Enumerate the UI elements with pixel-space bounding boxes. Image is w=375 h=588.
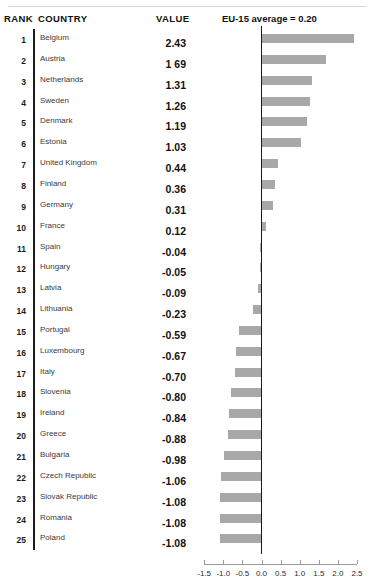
row-value-label: -0.23 [128,308,186,320]
row-rank: 4 [4,98,26,108]
row-rank: 22 [4,473,26,483]
row-country-label: Poland [40,533,65,542]
table-row[interactable]: 3Netherlands1.31 [0,71,375,92]
table-row[interactable]: 21Bulgaria-0.98 [0,446,375,467]
row-rank: 10 [4,223,26,233]
table-row[interactable]: 6Estonia1.03 [0,133,375,154]
row-value-label: -0.98 [128,454,186,466]
row-country-label: Austria [40,54,65,63]
table-row[interactable]: 12Hungary-0.05 [0,258,375,279]
row-rank: 16 [4,348,26,358]
x-axis-tick [338,560,339,564]
table-row[interactable]: 17Italy-0.70 [0,363,375,384]
table-row[interactable]: 19Ireland-0.84 [0,404,375,425]
row-rank: 2 [4,56,26,66]
table-row[interactable]: 14Lithuania-0.23 [0,300,375,321]
row-rank: 3 [4,77,26,87]
row-separator-rule [33,363,35,384]
table-row[interactable]: 4Sweden1.26 [0,92,375,113]
row-rank: 17 [4,369,26,379]
row-rank: 21 [4,452,26,462]
row-rank: 13 [4,285,26,295]
row-country-label: Belgium [40,33,69,42]
x-axis-line [204,564,357,565]
row-country-label: Bulgaria [40,450,69,459]
table-row[interactable]: 10France0.12 [0,217,375,238]
table-row[interactable]: 2Austria1 69 [0,50,375,71]
row-separator-rule [33,425,35,446]
row-country-label: Greece [40,429,66,438]
row-value-label: -0.70 [128,371,186,383]
row-rank: 25 [4,535,26,545]
table-row[interactable]: 11Spain-0.04 [0,238,375,259]
row-country-label: Estonia [40,137,67,146]
row-rank: 8 [4,181,26,191]
row-country-label: Luxembourg [40,346,84,355]
row-value-label: -0.05 [128,266,186,278]
x-axis-tick [204,560,205,564]
row-value-label: -0.80 [128,391,186,403]
row-separator-rule [33,279,35,300]
row-value-label: 0.44 [128,162,186,174]
row-rank: 11 [4,244,26,254]
row-value-label: 1.03 [128,141,186,153]
row-country-label: France [40,221,65,230]
row-separator-rule [33,258,35,279]
row-separator-rule [33,321,35,342]
row-value-label: -0.88 [128,433,186,445]
row-country-label: Ireland [40,408,64,417]
row-value-label: -1.06 [128,475,186,487]
table-row[interactable]: 7United Kingdom0.44 [0,154,375,175]
row-separator-rule [33,196,35,217]
row-separator-rule [33,71,35,92]
row-value-label: 1.31 [128,79,186,91]
table-row[interactable]: 9Germany0.31 [0,196,375,217]
table-row[interactable]: 8Finland0.36 [0,175,375,196]
table-row[interactable]: 22Czech Republic-1.06 [0,467,375,488]
x-axis-tick-label: 2.5 [342,569,372,578]
row-rank: 23 [4,494,26,504]
eu15-average-annotation: EU-15 average = 0.20 [222,13,317,26]
row-value-label: 0.31 [128,204,186,216]
row-separator-rule [33,133,35,154]
row-separator-rule [33,300,35,321]
row-separator-rule [33,383,35,404]
table-row[interactable]: 25Poland-1.08 [0,529,375,550]
row-rank: 18 [4,389,26,399]
table-row[interactable]: 13Latvia-0.09 [0,279,375,300]
table-row[interactable]: 23Slovak Republic-1.08 [0,488,375,509]
row-country-label: Italy [40,367,55,376]
row-value-label: 1.26 [128,100,186,112]
row-country-label: Germany [40,200,73,209]
row-rank: 20 [4,431,26,441]
table-row[interactable]: 15Portugal-0.59 [0,321,375,342]
row-separator-rule [33,217,35,238]
row-value-label: -0.59 [128,329,186,341]
table-row[interactable]: 18Slovenia-0.80 [0,383,375,404]
row-country-label: Slovak Republic [40,492,97,501]
row-rank: 19 [4,410,26,420]
row-separator-rule [33,238,35,259]
row-separator-rule [33,154,35,175]
row-value-label: 1 69 [128,58,186,70]
row-country-label: Spain [40,242,60,251]
row-separator-rule [33,446,35,467]
row-value-label: -1.08 [128,537,186,549]
table-row[interactable]: 16Luxembourg-0.67 [0,342,375,363]
row-value-label: -1.08 [128,517,186,529]
column-header-value: VALUE [156,13,190,26]
row-rank: 7 [4,160,26,170]
row-country-label: Hungary [40,262,70,271]
row-country-label: Slovenia [40,387,71,396]
row-rank: 5 [4,118,26,128]
table-row[interactable]: 1Belgium2.43 [0,29,375,50]
row-rank: 1 [4,35,26,45]
row-rank: 12 [4,264,26,274]
table-row[interactable]: 20Greece-0.88 [0,425,375,446]
x-axis-tick [357,560,358,564]
row-value-label: 0.36 [128,183,186,195]
row-value-label: 1.19 [128,120,186,132]
table-row[interactable]: 24Romania-1.08 [0,509,375,530]
table-row[interactable]: 5Denmark1.19 [0,112,375,133]
row-separator-rule [33,112,35,133]
